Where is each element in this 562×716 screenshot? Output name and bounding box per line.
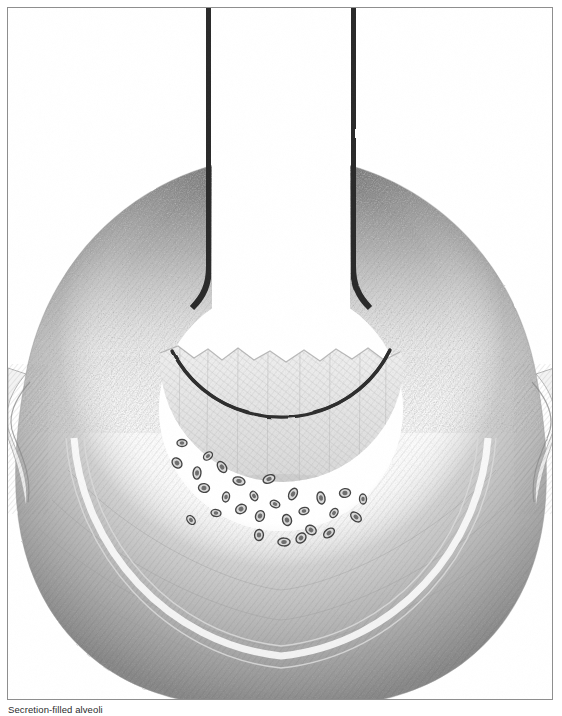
figure-caption: Secretion-filled alveoli	[8, 704, 103, 715]
alveoli-pencil-illustration	[8, 8, 553, 700]
illustration-frame	[7, 7, 553, 700]
figure-page: Secretion-filled alveoli	[0, 0, 562, 716]
paper-grain	[8, 8, 553, 700]
